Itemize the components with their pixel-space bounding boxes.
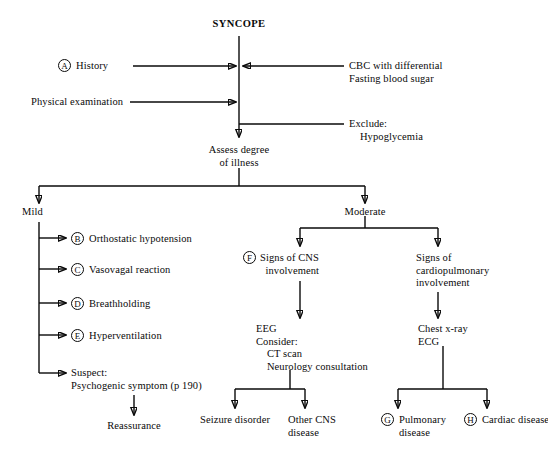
marker-e-icon: E [71,329,84,342]
outcome-seizure-disorder: Seizure disorder [200,414,270,427]
node-cardiopulmonary-workup: Chest x-ray ECG [418,323,468,348]
syncope-flowchart: SYNCOPE A History Physical examination C… [0,0,548,455]
mild-item-breathholding: Breathholding [89,298,150,311]
mild-item-vasovagal-reaction: Vasovagal reaction [89,264,170,277]
marker-c-icon: C [71,263,84,276]
mild-item-hyperventilation: Hyperventilation [89,330,162,343]
outcome-reassurance: Reassurance [107,420,161,433]
input-exclude-label: Exclude: Hypoglycemia [349,118,423,143]
node-assess-degree-of-illness: Assess degree of illness [209,144,270,169]
node-cns-workup: EEG Consider: CT scan Neurology consulta… [256,323,368,373]
outcome-pulmonary-disease: Pulmonary disease [399,414,446,439]
node-signs-of-cns-involvement: Signs of CNS involvement [260,252,319,277]
input-physical-exam-label: Physical examination [31,96,123,109]
outcome-other-cns-disease: Other CNS disease [288,414,336,439]
diagram-title: SYNCOPE [213,18,266,31]
node-signs-of-cardiopulmonary-involvement: Signs of cardiopulmonary involvement [416,252,489,290]
marker-h-icon: H [464,413,477,426]
mild-item-orthostatic-hypotension: Orthostatic hypotension [89,233,192,246]
mild-item-psychogenic-symptom: Suspect: Psychogenic symptom (p 190) [71,367,202,392]
branch-moderate-label: Moderate [344,206,385,219]
marker-a-icon: A [58,59,71,72]
branch-mild-label: Mild [22,206,43,219]
marker-b-icon: B [71,232,84,245]
marker-d-icon: D [71,297,84,310]
marker-f-icon: F [243,251,256,264]
input-labs-label: CBC with differential Fasting blood suga… [349,60,442,85]
outcome-cardiac-disease: Cardiac disease [482,414,548,427]
marker-g-icon: G [381,413,394,426]
input-history-label: History [76,60,108,73]
